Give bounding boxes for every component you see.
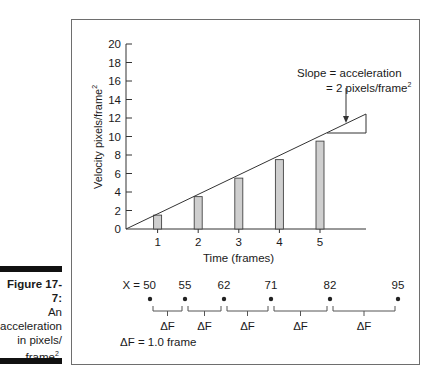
position-dot	[222, 297, 226, 301]
y-tick-label: 18	[108, 57, 121, 69]
y-tick-label: 12	[108, 112, 121, 124]
x-tick-label: 1	[154, 236, 160, 248]
y-tick-label: 0	[115, 223, 121, 235]
x-tick-label: 5	[317, 236, 323, 248]
velocity-bar	[275, 160, 283, 229]
y-tick-label: 20	[108, 38, 121, 50]
y-ticks: 02468101214161820	[108, 38, 132, 235]
y-tick-label: 16	[108, 75, 121, 87]
y-tick-label: 10	[108, 131, 121, 143]
slope-annotation-line1: Slope = acceleration	[297, 67, 402, 79]
position-dot	[148, 297, 152, 301]
interval-label: ΔF	[197, 320, 212, 332]
interval-bracket	[227, 306, 268, 311]
velocity-line	[126, 114, 366, 229]
interval-label: ΔF	[357, 320, 372, 332]
velocity-bar	[235, 178, 243, 229]
velocity-bar	[316, 141, 324, 229]
x-tick-label: 4	[276, 236, 283, 248]
interval-bracket	[274, 306, 327, 311]
y-tick-label: 2	[115, 205, 121, 217]
velocity-bar	[194, 197, 202, 229]
interval-bracket	[188, 306, 221, 311]
position-dot	[269, 297, 273, 301]
position-label: 55	[179, 279, 192, 291]
interval-label: ΔF	[160, 320, 175, 332]
interval-label: ΔF	[293, 320, 308, 332]
slope-annotation-line2: = 2 pixels/frame2	[326, 81, 412, 94]
position-label: 95	[392, 279, 405, 291]
position-dot	[328, 297, 332, 301]
y-tick-label: 4	[115, 186, 122, 198]
position-label: 82	[324, 279, 337, 291]
x-ticks: 12345	[154, 229, 323, 248]
interval-bracket	[333, 306, 395, 311]
position-label: 71	[265, 279, 278, 291]
y-axis-label: Velocity pixels/frame2	[91, 85, 104, 189]
interval-label: ΔF	[240, 320, 255, 332]
delta-frame-legend: ΔF = 1.0 frame	[120, 336, 196, 348]
x-axis-label: Time (frames)	[203, 252, 274, 264]
arrow-down-icon	[343, 116, 349, 123]
position-dot	[183, 297, 187, 301]
position-dot	[396, 297, 400, 301]
velocity-bar	[154, 215, 162, 229]
position-label: X = 50	[122, 279, 156, 291]
x-tick-label: 2	[195, 236, 201, 248]
y-tick-label: 14	[108, 94, 121, 106]
interval-bracket	[153, 306, 182, 311]
chart-svg: 02468101214161820 12345 Slope = accelera…	[0, 0, 447, 380]
y-tick-label: 6	[115, 168, 121, 180]
position-timeline: X = 505562718295ΔFΔFΔFΔFΔF	[122, 279, 404, 332]
position-label: 62	[218, 279, 231, 291]
y-tick-label: 8	[115, 149, 121, 161]
x-tick-label: 3	[236, 236, 242, 248]
bars	[154, 141, 324, 229]
